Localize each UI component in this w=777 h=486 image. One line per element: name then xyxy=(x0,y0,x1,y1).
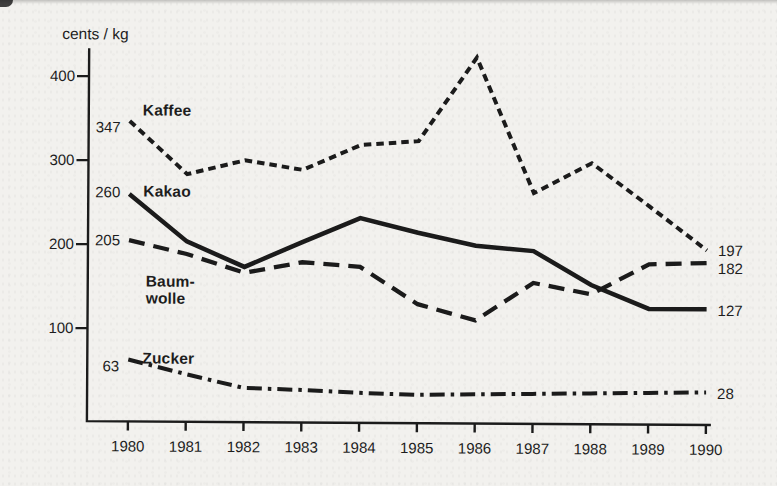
series-name-baumwolle: Baum-wolle xyxy=(146,272,195,306)
x-tick-label: 1980 xyxy=(104,437,152,454)
x-tick-label: 1987 xyxy=(508,440,556,457)
x-tick-label: 1982 xyxy=(219,438,267,455)
chart-area: cents / kg 40030020010019801981198219831… xyxy=(0,0,777,486)
x-tick-label: 1984 xyxy=(335,439,383,456)
series-end-value-zucker: 28 xyxy=(717,385,734,402)
series-end-value-baumwolle: 182 xyxy=(718,260,743,277)
series-line-zucker xyxy=(128,360,706,397)
series-start-value-zucker: 63 xyxy=(67,357,119,374)
x-tick-label: 1988 xyxy=(566,440,614,457)
series-start-value-baumwolle: 205 xyxy=(68,231,120,248)
series-end-value-kaffee: 197 xyxy=(718,242,743,259)
series-name-zucker: Zucker xyxy=(142,350,194,367)
x-tick-label: 1990 xyxy=(682,441,730,458)
scanned-page: cents / kg 40030020010019801981198219831… xyxy=(0,0,777,486)
y-tick-label: 300 xyxy=(22,151,74,168)
series-end-value-kakao: 127 xyxy=(718,302,743,319)
series-name-kaffee: Kaffee xyxy=(143,101,192,118)
x-tick-label: 1986 xyxy=(450,439,498,456)
series-line-kakao xyxy=(129,194,708,309)
x-tick-label: 1983 xyxy=(277,438,325,455)
y-tick-label: 400 xyxy=(23,67,75,84)
series-line-kaffee xyxy=(129,55,708,250)
x-tick-label: 1981 xyxy=(161,438,209,455)
x-tick-label: 1989 xyxy=(624,440,672,457)
y-axis-unit-label: cents / kg xyxy=(62,25,128,42)
y-tick-label: 100 xyxy=(21,319,73,336)
series-start-value-kaffee: 347 xyxy=(69,118,121,135)
series-start-value-kakao: 260 xyxy=(68,183,120,200)
x-tick-label: 1985 xyxy=(393,439,441,456)
series-name-kakao: Kakao xyxy=(143,182,191,199)
y-tick-label: 200 xyxy=(22,235,74,252)
